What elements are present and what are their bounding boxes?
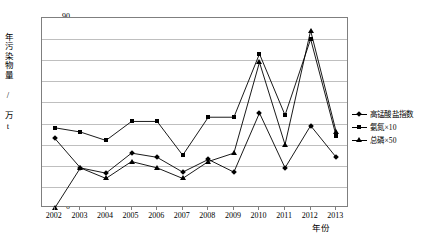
x-tick-mark: [105, 207, 106, 210]
data-point-marker: [334, 134, 338, 138]
data-point-marker: [77, 165, 83, 170]
series-line-0: [55, 113, 336, 173]
chart-legend: 高锰酸盐指数氨氮×10总磷×50: [352, 108, 425, 147]
data-point-marker: [104, 138, 108, 142]
data-point-marker: [282, 142, 288, 147]
data-point-marker: [308, 28, 314, 33]
data-point-marker: [257, 52, 261, 56]
y-axis-title: 年污染物量 / 万t: [0, 33, 12, 131]
x-tick-mark: [284, 207, 285, 210]
data-point-marker: [283, 113, 287, 117]
data-point-marker: [155, 119, 159, 123]
x-tick-mark: [233, 207, 234, 210]
x-tick-mark: [182, 207, 183, 210]
series-lines: [42, 18, 349, 208]
x-tick-mark: [335, 207, 336, 210]
data-point-marker: [231, 150, 237, 155]
data-point-marker: [309, 37, 313, 41]
legend-item-0[interactable]: 高锰酸盐指数: [352, 108, 425, 121]
x-tick-mark: [79, 207, 80, 210]
data-point-marker: [256, 59, 262, 64]
data-point-marker: [181, 153, 185, 157]
data-point-marker: [129, 159, 135, 164]
data-point-marker: [103, 175, 109, 180]
legend-label: 总磷×50: [370, 136, 397, 145]
data-point-marker: [333, 129, 339, 134]
legend-label: 高锰酸盐指数: [370, 110, 413, 119]
x-tick-mark: [258, 207, 259, 210]
data-point-marker: [52, 205, 58, 210]
x-tick-mark: [207, 207, 208, 210]
x-tick-mark: [156, 207, 157, 210]
data-point-marker: [180, 175, 186, 180]
x-axis-title: 年份: [312, 224, 331, 233]
legend-marker-glyph: [356, 137, 362, 142]
data-point-marker: [154, 165, 160, 170]
legend-marker-glyph: [356, 111, 362, 117]
plot-area: [41, 17, 348, 207]
legend-marker-icon: [352, 136, 367, 145]
x-tick-mark: [131, 207, 132, 210]
chart-container: 年污染物量 / 万t 0102030405060708090 200220032…: [0, 0, 425, 245]
series-line-2: [55, 31, 336, 208]
data-point-marker: [206, 115, 210, 119]
legend-marker-icon: [352, 123, 367, 132]
data-point-marker: [53, 126, 57, 130]
legend-label: 氨氮×10: [370, 123, 397, 132]
series-line-1: [55, 39, 336, 155]
data-point-marker: [205, 159, 211, 164]
legend-marker-icon: [352, 110, 367, 119]
x-tick-label: 2013: [320, 211, 350, 220]
data-point-marker: [78, 130, 82, 134]
data-point-marker: [232, 115, 236, 119]
legend-item-2[interactable]: 总磷×50: [352, 134, 425, 147]
legend-marker-glyph: [357, 125, 361, 129]
x-tick-mark: [310, 207, 311, 210]
legend-item-1[interactable]: 氨氮×10: [352, 121, 425, 134]
x-tick-mark: [54, 207, 55, 210]
data-point-marker: [130, 119, 134, 123]
